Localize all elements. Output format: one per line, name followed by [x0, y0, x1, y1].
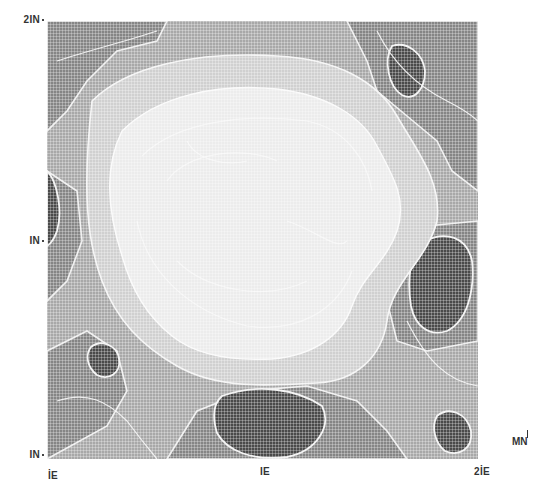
contour-map-graphic: [47, 21, 478, 459]
x-axis-label-center: IE: [250, 466, 280, 477]
north-indicator: MN: [512, 436, 528, 447]
x-axis-label-left: İE: [38, 470, 68, 481]
contour-map: [47, 21, 478, 459]
tick-mark-icon: [42, 19, 44, 21]
tick-mark-icon: [42, 240, 44, 242]
y-label-text: IN: [29, 235, 40, 246]
x-axis-label-right: 2İE: [467, 466, 497, 477]
y-axis-label-top: 2IN: [4, 14, 44, 25]
y-label-text: IN: [29, 449, 40, 460]
grid-texture: [47, 21, 478, 459]
tick-mark-icon: [42, 454, 44, 456]
north-indicator-text: MN: [512, 436, 528, 447]
north-arrow-icon: [527, 430, 528, 438]
y-axis-label-middle: IN: [4, 235, 44, 246]
y-axis-label-bottom: IN: [4, 449, 44, 460]
y-label-text: 2IN: [24, 14, 40, 25]
